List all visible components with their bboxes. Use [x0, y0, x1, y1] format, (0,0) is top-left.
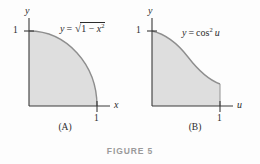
x-axis-label-a: x [114, 100, 118, 110]
y-tick-label-a: 1 [13, 26, 18, 36]
curve-label-a-exponent: 2 [101, 22, 104, 29]
x-axis-label-b: u [237, 100, 242, 110]
y-tick-label-b: 1 [136, 26, 141, 36]
figure-caption: FIGURE 5 [0, 146, 260, 156]
curve-label-b-arg: u [215, 27, 220, 38]
curve-label-b-lhs: y [182, 27, 186, 38]
curve-label-b-exponent: 2 [209, 26, 212, 33]
panel-a: y x 1 1 y= √1 − x2 (A) [0, 0, 130, 140]
y-axis-label-b: y [148, 6, 152, 16]
shaded-region-a [29, 31, 97, 106]
panel-caption-a: (A) [0, 122, 130, 132]
curve-label-b: y=cos2u [182, 27, 220, 38]
panel-b: y u 1 1 y=cos2u (B) [130, 0, 260, 140]
curve-label-b-fn: cos [196, 27, 209, 38]
y-axis-label-a: y [25, 6, 29, 16]
curve-label-a-lhs: y [60, 23, 64, 34]
panel-a-plot [0, 0, 130, 140]
curve-label-a-inner: 1 − [81, 23, 97, 34]
shaded-region-b [152, 31, 220, 106]
curve-label-a-equals: = [66, 23, 72, 34]
curve-label-b-equals: = [188, 27, 194, 38]
curve-label-a: y= √1 − x2 [60, 22, 105, 34]
panel-caption-b: (B) [130, 122, 260, 132]
figure-5: y x 1 1 y= √1 − x2 (A) y [0, 0, 260, 164]
panel-b-plot [130, 0, 260, 140]
